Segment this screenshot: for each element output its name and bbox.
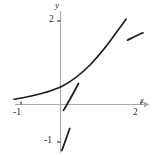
y-tick-label-neg1: -1 <box>44 136 52 146</box>
tangent-segment-lower <box>64 84 79 111</box>
x-tick-label-2: 2 <box>133 108 138 118</box>
plot-canvas <box>0 0 155 155</box>
exponential-curve <box>14 19 126 99</box>
y-axis-label: y <box>55 1 59 10</box>
tangent-segment-bottom <box>62 129 70 151</box>
graph-figure: y x 2 -1 -1 2 <box>0 0 155 155</box>
x-tick-label-neg1: -1 <box>13 108 21 118</box>
y-tick-label-2: 2 <box>49 15 54 25</box>
x-axis-label: x <box>140 96 144 105</box>
x-axis-arrow-icon <box>144 102 150 107</box>
tangent-segment-upper-right <box>128 33 144 40</box>
